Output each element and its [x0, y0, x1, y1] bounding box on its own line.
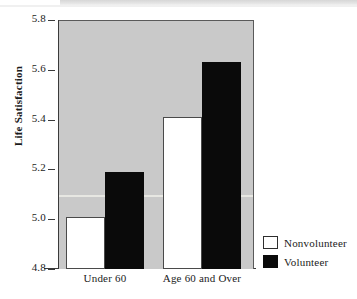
bar-nonvolunteer-age-60-and-over — [163, 117, 202, 269]
white-square-swatch-icon — [263, 236, 278, 249]
y-axis-title: Life Satisfaction — [12, 46, 24, 166]
y-tick-mark — [48, 169, 55, 170]
y-tick-mark — [48, 20, 55, 21]
y-tick-label: 5.6 — [32, 62, 46, 74]
y-tick-label: 4.8 — [32, 261, 46, 273]
chart-legend: Nonvolunteer Volunteer — [263, 234, 355, 272]
y-tick-label: 5.0 — [32, 211, 46, 223]
legend-label-volunteer: Volunteer — [284, 256, 328, 268]
y-tick-label: 5.8 — [32, 12, 46, 24]
scan-artifact-line — [0, 5, 357, 7]
legend-item-volunteer: Volunteer — [263, 253, 355, 270]
y-tick-mark — [48, 219, 55, 220]
x-axis-label-1: Age 60 and Over — [142, 272, 262, 284]
y-tick-label: 5.2 — [32, 161, 46, 173]
y-tick-mark — [48, 269, 55, 270]
y-tick-mark — [48, 120, 55, 121]
black-square-swatch-icon — [263, 255, 278, 268]
y-tick-label: 5.4 — [32, 112, 46, 124]
bar-volunteer-age-60-and-over — [202, 62, 241, 269]
bar-volunteer-under-60 — [105, 172, 144, 269]
legend-label-nonvolunteer: Nonvolunteer — [284, 237, 347, 249]
legend-item-nonvolunteer: Nonvolunteer — [263, 234, 355, 251]
bar-chart-figure: Life Satisfaction 5.85.65.45.25.04.8 Und… — [0, 0, 357, 299]
bar-nonvolunteer-under-60 — [66, 217, 105, 269]
plot-area — [59, 20, 254, 269]
y-tick-mark — [48, 70, 55, 71]
